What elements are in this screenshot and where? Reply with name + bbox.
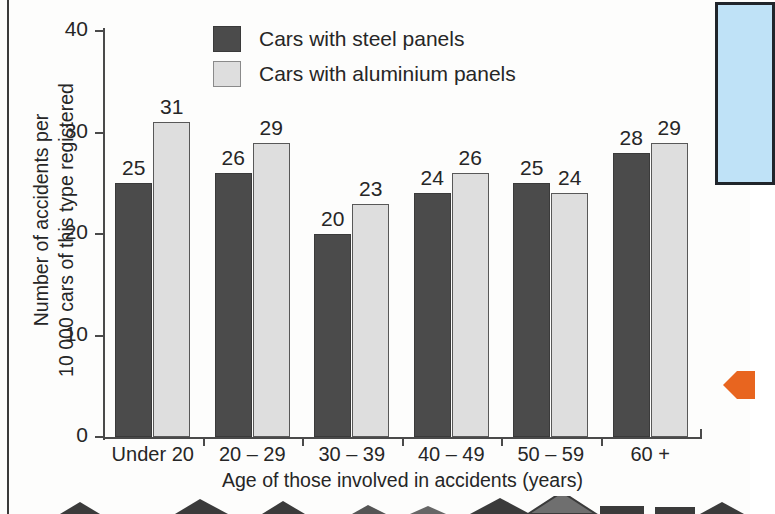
blue-callout-box [715, 2, 775, 185]
bar-aluminium-3 [452, 173, 489, 437]
bar-value-label-steel-2: 20 [308, 207, 357, 231]
bar-value-label-aluminium-1: 29 [247, 116, 296, 140]
bar-steel-4 [513, 183, 550, 437]
legend-swatch-aluminium-icon [213, 61, 241, 87]
bar-value-label-aluminium-5: 29 [645, 116, 694, 140]
bar-value-label-aluminium-2: 23 [346, 177, 395, 201]
x-category-label-5: 60 + [601, 443, 701, 466]
bar-value-label-aluminium-0: 31 [147, 95, 196, 119]
y-axis-title-line2: 10 000 cars of this type registered [55, 10, 78, 450]
bar-aluminium-2 [352, 204, 389, 437]
bar-steel-1 [215, 173, 252, 437]
bar-value-label-aluminium-3: 26 [446, 146, 495, 170]
x-axis-end-cap [700, 429, 702, 439]
bar-value-label-steel-0: 25 [109, 156, 158, 180]
bar-steel-5 [613, 153, 650, 437]
x-category-label-0: Under 20 [103, 443, 203, 466]
bar-steel-3 [414, 193, 451, 437]
legend-label-steel: Cars with steel panels [259, 27, 464, 51]
bottom-cutoff-decoration [0, 496, 750, 514]
legend-swatch-steel-icon [213, 26, 241, 52]
legend-label-aluminium: Cars with aluminium panels [259, 62, 516, 86]
bar-steel-2 [314, 234, 351, 437]
chart-legend: Cars with steel panels Cars with alumini… [213, 24, 516, 94]
x-category-label-3: 40 – 49 [402, 443, 502, 466]
bar-aluminium-5 [651, 143, 688, 437]
bar-value-label-aluminium-4: 24 [545, 166, 594, 190]
bar-aluminium-0 [153, 122, 190, 437]
x-category-label-1: 20 – 29 [203, 443, 303, 466]
y-tick-20 [95, 233, 104, 235]
x-category-label-2: 30 – 39 [302, 443, 402, 466]
y-tick-10 [95, 335, 104, 337]
bar-value-label-steel-1: 26 [209, 146, 258, 170]
y-tick-40 [95, 30, 104, 32]
orange-arrow-icon [723, 369, 755, 401]
y-tick-30 [95, 132, 104, 134]
legend-item-aluminium: Cars with aluminium panels [213, 59, 516, 89]
bar-aluminium-1 [253, 143, 290, 437]
y-tick-0 [95, 436, 104, 438]
legend-item-steel: Cars with steel panels [213, 24, 516, 54]
y-axis-title-line1: Number of accidents per [30, 20, 53, 420]
bar-steel-0 [115, 183, 152, 437]
x-axis-title: Age of those involved in accidents (year… [103, 469, 702, 492]
bar-aluminium-4 [551, 193, 588, 437]
x-category-label-4: 50 – 59 [501, 443, 601, 466]
